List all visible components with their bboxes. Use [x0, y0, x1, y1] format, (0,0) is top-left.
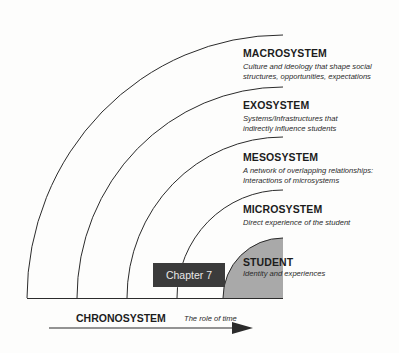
mesosystem-label: MESOSYSTEM A network of overlapping rela… — [243, 151, 373, 185]
microsystem-description: Direct experience of the student — [243, 218, 350, 228]
student-title: STUDENT — [243, 256, 325, 268]
exosystem-desc-line1: Systems/Infrastructures that — [243, 114, 338, 124]
exosystem-label: EXOSYSTEM Systems/Infrastructures that i… — [243, 99, 338, 133]
mesosystem-description: A network of overlapping relationships: … — [243, 166, 373, 185]
student-label: STUDENT Identity and experiences — [243, 256, 325, 279]
exosystem-description: Systems/Infrastructures that indirectly … — [243, 114, 338, 133]
macrosystem-label: MACROSYSTEM Culture and ideology that sh… — [243, 47, 372, 81]
exosystem-title: EXOSYSTEM — [243, 99, 338, 111]
mesosystem-desc-line1: A network of overlapping relationships: — [243, 166, 373, 176]
chapter-7-box: Chapter 7 — [153, 263, 225, 287]
chronosystem-arrow-head — [232, 322, 253, 334]
student-description: Identity and experiences — [243, 269, 325, 279]
macrosystem-title: MACROSYSTEM — [243, 47, 372, 59]
macrosystem-desc-line1: Culture and ideology that shape social — [243, 62, 372, 72]
mesosystem-desc-line2: Interactions of microsystems — [243, 176, 373, 186]
microsystem-label: MICROSYSTEM Direct experience of the stu… — [243, 203, 350, 228]
macrosystem-desc-line2: structures, opportunities, expectations — [243, 72, 372, 82]
macrosystem-description: Culture and ideology that shape social s… — [243, 62, 372, 81]
chronosystem-title: CHRONOSYSTEM — [76, 312, 166, 324]
microsystem-title: MICROSYSTEM — [243, 203, 350, 215]
chronosystem-description: The role of time — [184, 314, 237, 323]
exosystem-desc-line2: indirectly influence students — [243, 124, 338, 134]
mesosystem-title: MESOSYSTEM — [243, 151, 373, 163]
